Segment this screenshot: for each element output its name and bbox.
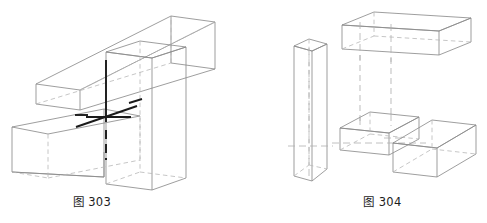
figure-303-canvas [0,0,244,223]
figure-303-caption: 图 303 [0,193,214,209]
drawing-page: 图 303 [0,0,487,223]
figure-303: 图 303 [0,0,244,223]
figure-304: 图 304 [244,0,487,223]
lower-right-block [393,120,476,177]
lower-beam-hidden-edges [12,116,140,178]
upper-beam-hidden-edges [36,16,215,104]
figure-303-centre-lines [76,60,137,127]
upper-horizontal-beam [36,16,215,110]
lower-horizontal-beam [12,109,140,177]
top-long-beam [342,12,471,55]
projection-lines [360,55,391,122]
middle-small-block [340,112,419,155]
tall-prism-centre-line [288,48,333,178]
figure-304-canvas [244,0,487,223]
tall-vertical-prism [294,39,327,181]
tall-prism-hidden-edges [294,39,327,176]
figure-304-caption: 图 304 [261,193,487,209]
